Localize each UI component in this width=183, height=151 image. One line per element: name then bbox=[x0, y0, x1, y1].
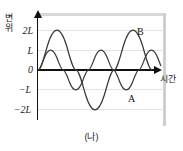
waveform-plot bbox=[0, 0, 183, 151]
x-axis-title: 시간 bbox=[160, 72, 176, 85]
y-tick-label-zero: 0 bbox=[5, 65, 33, 75]
figure-caption: (나) bbox=[0, 130, 183, 143]
curve-label-B: B bbox=[137, 26, 144, 37]
wave-curve-A bbox=[38, 50, 161, 90]
y-tick-label-2L: 2L bbox=[5, 26, 33, 36]
curve-label-A: A bbox=[128, 93, 135, 104]
y-tick-label-neg-L: −L bbox=[3, 85, 31, 95]
y-tick-label-L: L bbox=[5, 46, 33, 56]
y-tick-label-neg-2L: −2L bbox=[3, 105, 31, 115]
displacement-time-figure: 변 위 2L L 0 −L −2L 시간 B A (나) bbox=[0, 0, 183, 151]
